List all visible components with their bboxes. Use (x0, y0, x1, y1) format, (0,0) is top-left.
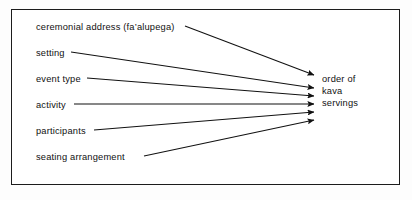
source-label-participants: participants (36, 126, 86, 137)
source-label-event-type: event type (36, 74, 81, 85)
target-node-label: order ofkavaservings (322, 73, 358, 110)
target-label-line-1: order of (322, 73, 358, 85)
source-label-activity: activity (36, 100, 66, 111)
source-label-seating-arrangement: seating arrangement (36, 152, 125, 163)
target-label-line-3: servings (322, 97, 358, 109)
target-label-line-2: kava (322, 85, 358, 97)
source-label-ceremonial-address: ceremonial address (fa’alupega) (36, 22, 175, 33)
source-label-setting: setting (36, 48, 65, 59)
figure-root: ceremonial address (fa’alupega)settingev… (0, 0, 412, 200)
